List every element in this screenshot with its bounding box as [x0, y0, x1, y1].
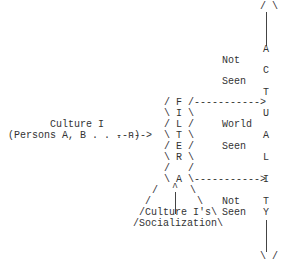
culture-filter-diagram: Culture I (Persons A, B . . . n) -----> …: [0, 0, 282, 268]
actuality-letter-l: L: [263, 153, 269, 163]
actuality-bottom-line: [266, 220, 267, 252]
filter-row-blank: / /: [164, 164, 194, 174]
actuality-top-line: [266, 12, 267, 46]
filter-row-e: / E /: [164, 142, 194, 152]
upper-arrow: ----------->: [194, 98, 266, 108]
actuality-top-arrowhead: / \: [260, 2, 278, 12]
filter-row-l: / L /: [164, 120, 194, 130]
actuality-letter-c: C: [263, 66, 269, 76]
base-left-slash-1: /: [152, 186, 158, 196]
seen-label-middle: Seen: [222, 142, 246, 152]
actuality-letter-a1: A: [263, 45, 269, 55]
actuality-letter-y: Y: [263, 208, 269, 218]
base-right-slash-1: \: [190, 186, 196, 196]
input-arrow: ----->: [116, 131, 152, 141]
seen-label-bottom: Seen: [222, 208, 246, 218]
base-left-slash-2: /: [145, 197, 151, 207]
actuality-letter-a2: A: [263, 131, 269, 141]
not-label-bottom: Not: [222, 197, 240, 207]
not-label-top: Not: [222, 56, 240, 66]
filter-row-r: \ R \: [164, 153, 194, 163]
filter-row-f: / F /: [164, 98, 194, 108]
base-right-slash-2: \: [197, 197, 203, 207]
filter-row-t: \ T \: [164, 131, 194, 141]
actuality-bottom-arrowhead: \ /: [260, 252, 278, 262]
lower-arrow: ----------->: [194, 175, 266, 185]
world-label: World: [222, 120, 252, 130]
base-label-2: /Socialization\: [133, 219, 223, 229]
actuality-letter-t1: T: [263, 88, 269, 98]
filter-row-i: \ I \: [164, 109, 194, 119]
culture-i-title: Culture I: [50, 120, 104, 130]
actuality-letter-u: U: [263, 109, 269, 119]
seen-label-top: Seen: [222, 77, 246, 87]
actuality-letter-t2: T: [263, 197, 269, 207]
actuality-letter-i: I: [263, 175, 269, 185]
base-label-1: /Culture I's\: [139, 208, 217, 218]
filter-row-a: \ A \: [164, 175, 194, 185]
